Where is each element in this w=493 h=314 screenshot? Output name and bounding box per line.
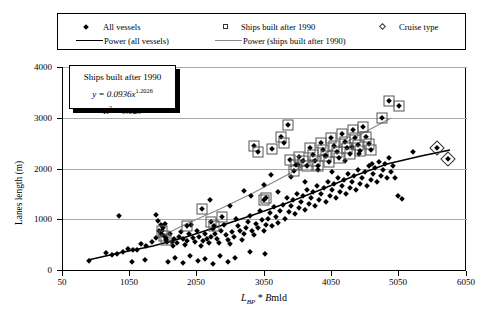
y-tick-label-1000: 1000 xyxy=(22,214,52,224)
x-axis-title-bp: BP xyxy=(247,298,256,306)
x-tick-label-3050: 3050 xyxy=(244,277,284,287)
x-tick-1050 xyxy=(129,271,130,276)
annotation-eq-exponent: 1.2026 xyxy=(135,87,152,94)
legend-open-diamond-icon xyxy=(379,23,386,30)
x-tick-2050 xyxy=(196,271,197,276)
annotation-r2-value: = 0.829 xyxy=(112,106,142,116)
y-tick-label-0: 0 xyxy=(22,265,52,275)
x-tick-5050 xyxy=(398,271,399,276)
x-tick-label-1050: 1050 xyxy=(109,277,149,287)
x-tick-3050 xyxy=(264,271,265,276)
x-tick-label-4050: 4050 xyxy=(311,277,351,287)
legend-label-cruise-type: Cruise type xyxy=(399,22,438,32)
y-tick-label-3000: 3000 xyxy=(22,113,52,123)
x-tick-6050 xyxy=(466,271,467,276)
annotation-title: Ships built after 1990 xyxy=(70,66,175,84)
legend-label-power-all-vessels: Power (all vessels) xyxy=(104,36,169,46)
x-tick-50 xyxy=(62,271,63,276)
legend-black-line-icon xyxy=(76,40,103,41)
chart-legend: All vessels Ships built after 1990 Cruis… xyxy=(57,13,466,50)
x-tick-label-5050: 5050 xyxy=(378,277,418,287)
x-tick-label-6050: 6050 xyxy=(446,277,486,287)
x-tick-4050 xyxy=(331,271,332,276)
legend-filled-diamond-icon xyxy=(83,24,89,30)
x-axis-title-mld: mld xyxy=(271,292,287,303)
lanes-length-scatter-chart: All vessels Ships built after 1990 Cruis… xyxy=(0,0,493,314)
legend-label-power-ships-1990: Power (ships built after 1990) xyxy=(243,36,346,46)
y-tick-label-2000: 2000 xyxy=(22,164,52,174)
legend-open-square-icon xyxy=(223,24,228,29)
x-tick-label-2050: 2050 xyxy=(176,277,216,287)
legend-label-ships-after-1990: Ships built after 1990 xyxy=(241,22,315,32)
annotation-equation: y = 0.0936x1.2026 xyxy=(70,84,175,101)
y-tick-label-4000: 4000 xyxy=(22,62,52,72)
legend-label-all-vessels: All vessels xyxy=(103,22,140,32)
x-axis-title-star: * xyxy=(255,292,265,303)
annotation-r2: R2 = 0.829 xyxy=(70,101,175,118)
x-tick-label-50: 50 xyxy=(42,277,82,287)
annotation-eq-prefix: y = 0.0936x xyxy=(92,89,135,99)
annotation-box: Ships built after 1990 y = 0.0936x1.2026… xyxy=(69,65,176,109)
y-axis-title: Lanes length (m) xyxy=(14,161,24,225)
legend-gray-line-icon xyxy=(215,40,242,41)
x-axis-title: LBP * Bmld xyxy=(184,292,344,306)
